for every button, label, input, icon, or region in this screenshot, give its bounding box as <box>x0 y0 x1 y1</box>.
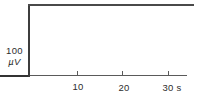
x-axis-tick-label-30: 30 s <box>157 83 187 93</box>
y-scale-value: 100 <box>6 45 23 56</box>
trace-baseline-segment <box>0 75 30 78</box>
y-scale-label: 100 µV <box>3 45 26 67</box>
x-axis-tick-20 <box>122 71 123 75</box>
calibration-chart: 100 µV 10 20 30 s <box>0 0 198 100</box>
trace-step-rise <box>28 4 30 77</box>
x-axis-tick-label-20: 20 <box>116 83 132 93</box>
x-axis-tick-30 <box>168 71 169 75</box>
x-axis-tick-label-10: 10 <box>70 82 86 92</box>
y-scale-unit: µV <box>3 56 26 67</box>
x-axis-tick-10 <box>77 71 78 75</box>
x-axis-line <box>30 75 187 76</box>
trace-top-segment <box>28 4 194 6</box>
